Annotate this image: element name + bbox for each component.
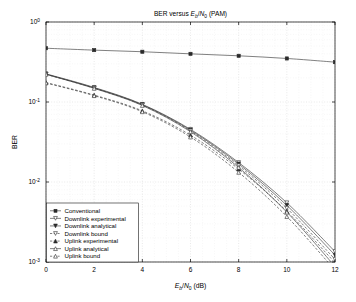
x-tick-label: 0 bbox=[44, 266, 48, 273]
legend-label: Uplink analytical bbox=[65, 245, 109, 252]
x-tick-label: 10 bbox=[283, 266, 291, 273]
x-tick-label: 12 bbox=[331, 266, 339, 273]
legend-label: Downlink analytical bbox=[65, 222, 117, 229]
y-tick-label: 10-3 bbox=[29, 258, 41, 266]
legend-label: Downlink bound bbox=[65, 230, 108, 237]
x-axis-label: Eb/N0 (dB) bbox=[175, 282, 207, 291]
x-tick-label: 6 bbox=[189, 266, 193, 273]
y-tick-label: 100 bbox=[30, 18, 40, 26]
chart-legend[interactable]: ConventionalDownlink experimentalDownlin… bbox=[47, 203, 139, 262]
x-tick-labels: 024681012 bbox=[44, 266, 339, 273]
legend-label: Downlink experimental bbox=[65, 215, 126, 222]
chart-title: BER versus Eb/N0 (PAM) bbox=[154, 10, 227, 19]
legend-label: Uplink experimental bbox=[65, 237, 119, 244]
legend-label: Conventional bbox=[65, 207, 101, 214]
y-tick-labels: 10010-110-210-3 bbox=[29, 18, 41, 266]
x-tick-label: 8 bbox=[237, 266, 241, 273]
ber-versus-ebn0-plot: 024681012 10010-110-210-3 BER versus Eb/… bbox=[0, 0, 356, 302]
y-tick-label: 10-1 bbox=[29, 98, 41, 106]
x-tick-label: 4 bbox=[141, 266, 145, 273]
y-axis-label: BER bbox=[11, 135, 18, 149]
y-tick-label: 10-2 bbox=[29, 178, 41, 186]
legend-label: Uplink bound bbox=[65, 252, 101, 259]
chart-figure: 024681012 10010-110-210-3 BER versus Eb/… bbox=[0, 0, 356, 302]
x-tick-label: 2 bbox=[92, 266, 96, 273]
